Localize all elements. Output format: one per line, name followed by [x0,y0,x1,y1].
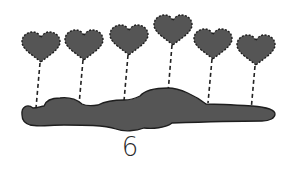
string-4 [168,45,172,93]
count-number: 6 [110,132,150,162]
heart-balloons [22,15,275,65]
heart-balloon-icon [194,29,232,59]
heart-balloon-icon [154,15,192,45]
string-2 [79,60,83,105]
heart-balloon-icon [22,32,60,62]
string-5 [208,59,212,103]
heart-balloon-icon [65,30,103,60]
string-1 [36,63,40,108]
cloud-shape [22,88,275,131]
string-3 [124,55,128,101]
string-6 [251,66,255,111]
heart-balloon-icon [110,25,148,55]
heart-balloon-icon [237,35,275,65]
